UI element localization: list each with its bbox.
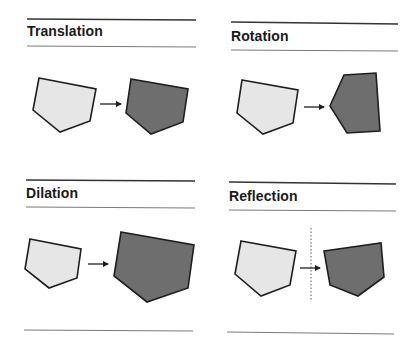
bottom-rule: [227, 332, 394, 334]
title-dilation: Dilation: [26, 185, 78, 201]
panel-dilation: [24, 180, 195, 331]
bottom-rule: [231, 50, 398, 51]
bottom-rule: [27, 46, 196, 47]
bottom-rule: [24, 330, 193, 331]
original-pentagon: [25, 239, 81, 288]
transformed-pentagon: [324, 243, 384, 296]
transformed-pentagon: [114, 232, 194, 302]
transformed-pentagon: [330, 73, 380, 133]
original-pentagon: [33, 78, 96, 132]
title-reflection: Reflection: [229, 188, 298, 204]
panel-reflection: [227, 182, 396, 334]
top-rule: [231, 22, 398, 24]
top-rule: [229, 182, 396, 184]
original-pentagon: [235, 241, 296, 296]
bottom-rule: [229, 210, 396, 211]
transformed-pentagon: [126, 79, 188, 134]
transformations-diagram: [0, 0, 416, 348]
original-pentagon: [237, 80, 298, 134]
top-rule: [26, 180, 195, 181]
top-rule: [27, 19, 196, 20]
bottom-rule: [26, 207, 195, 208]
title-rotation: Rotation: [231, 28, 289, 44]
title-translation: Translation: [27, 23, 103, 39]
